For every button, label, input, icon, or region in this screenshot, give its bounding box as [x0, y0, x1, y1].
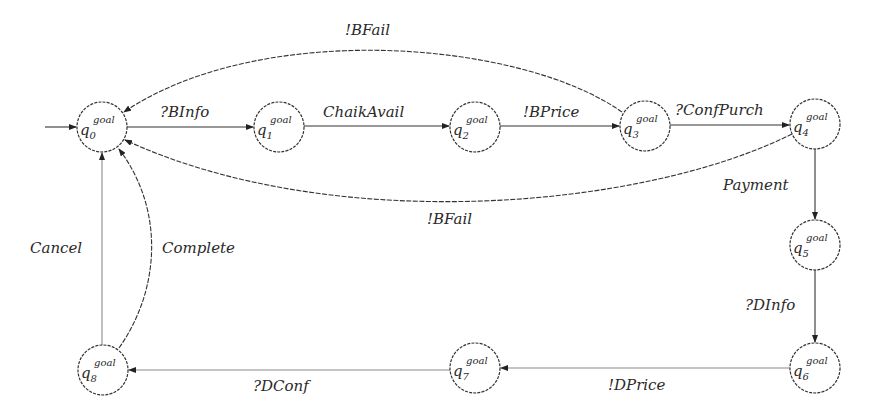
state-q0: q0 goal [77, 102, 127, 152]
svg-text:goal: goal [466, 355, 488, 366]
svg-text:goal: goal [806, 232, 828, 243]
label-binfo: ?BInfo [160, 103, 209, 121]
state-q5: q5 goal [790, 220, 840, 270]
state-q8: q8 goal [78, 345, 128, 395]
state-q7: q7 goal [450, 343, 500, 393]
label-dinfo: ?DInfo [745, 296, 795, 314]
svg-text:goal: goal [636, 113, 658, 124]
label-cancel: Cancel [30, 239, 82, 257]
label-dprice: !DPrice [608, 376, 666, 394]
label-payment: Payment [722, 176, 790, 194]
state-q2: q2 goal [450, 102, 500, 152]
label-confpurch: ?ConfPurch [675, 101, 764, 119]
label-bfail-bottom: !BFail [427, 210, 472, 228]
state-q4: q4 goal [790, 99, 840, 149]
label-chaikavail: ChaikAvail [323, 103, 404, 121]
svg-text:goal: goal [93, 114, 115, 125]
label-dconf: ?DConf [253, 377, 311, 395]
label-bfail-top: !BFail [345, 21, 390, 39]
state-q1: q1 goal [254, 102, 304, 152]
svg-text:goal: goal [94, 357, 116, 368]
label-bprice: !BPrice [523, 103, 580, 121]
svg-text:goal: goal [806, 111, 828, 122]
svg-text:goal: goal [466, 114, 488, 125]
state-diagram: ?BInfo ChaikAvail !BPrice ?ConfPurch !BF… [0, 0, 874, 413]
label-complete: Complete [162, 239, 235, 257]
svg-text:goal: goal [270, 114, 292, 125]
edge-q8-q0-complete [119, 149, 152, 348]
svg-text:goal: goal [806, 355, 828, 366]
state-q6: q6 goal [790, 343, 840, 393]
state-q3: q3 goal [620, 101, 670, 151]
